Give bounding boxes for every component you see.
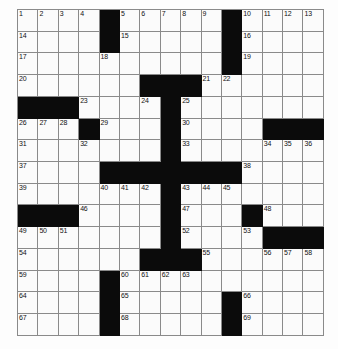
grid-cell-open[interactable] — [242, 184, 262, 206]
grid-cell-open[interactable] — [38, 32, 58, 54]
grid-cell-open[interactable] — [38, 184, 58, 206]
grid-cell-open[interactable] — [120, 97, 140, 119]
grid-cell-open[interactable]: 23 — [79, 97, 99, 119]
grid-cell-open[interactable] — [59, 314, 79, 336]
grid-cell-open[interactable] — [222, 227, 242, 249]
grid-cell-open[interactable] — [283, 205, 303, 227]
grid-cell-open[interactable]: 59 — [18, 271, 38, 293]
grid-cell-open[interactable]: 44 — [202, 184, 222, 206]
grid-cell-open[interactable] — [140, 140, 160, 162]
grid-cell-open[interactable] — [202, 314, 222, 336]
grid-cell-open[interactable] — [283, 162, 303, 184]
grid-cell-open[interactable] — [120, 140, 140, 162]
grid-cell-open[interactable] — [181, 292, 201, 314]
grid-cell-open[interactable]: 20 — [18, 75, 38, 97]
grid-cell-open[interactable]: 10 — [242, 10, 262, 32]
grid-cell-open[interactable] — [38, 271, 58, 293]
grid-cell-open[interactable] — [100, 249, 120, 271]
grid-cell-open[interactable] — [59, 140, 79, 162]
grid-cell-open[interactable] — [100, 75, 120, 97]
grid-cell-open[interactable]: 24 — [140, 97, 160, 119]
grid-cell-open[interactable]: 50 — [38, 227, 58, 249]
grid-cell-open[interactable]: 56 — [263, 249, 283, 271]
grid-cell-open[interactable] — [283, 271, 303, 293]
grid-cell-open[interactable] — [59, 271, 79, 293]
grid-cell-open[interactable] — [59, 162, 79, 184]
grid-cell-open[interactable] — [120, 227, 140, 249]
grid-cell-open[interactable]: 15 — [120, 32, 140, 54]
grid-cell-open[interactable] — [120, 53, 140, 75]
grid-cell-open[interactable] — [263, 53, 283, 75]
grid-cell-open[interactable] — [242, 119, 262, 141]
grid-cell-open[interactable]: 9 — [202, 10, 222, 32]
grid-cell-open[interactable]: 28 — [59, 119, 79, 141]
grid-cell-open[interactable] — [100, 140, 120, 162]
grid-cell-open[interactable] — [303, 184, 323, 206]
grid-cell-open[interactable]: 60 — [120, 271, 140, 293]
grid-cell-open[interactable] — [181, 314, 201, 336]
grid-cell-open[interactable] — [283, 184, 303, 206]
crossword-grid[interactable]: 1234567891011121314151617181920212223242… — [17, 9, 324, 336]
grid-cell-open[interactable] — [222, 140, 242, 162]
grid-cell-open[interactable]: 39 — [18, 184, 38, 206]
grid-cell-open[interactable] — [79, 75, 99, 97]
grid-cell-open[interactable]: 62 — [161, 271, 181, 293]
grid-cell-open[interactable] — [140, 205, 160, 227]
grid-cell-open[interactable]: 31 — [18, 140, 38, 162]
grid-cell-open[interactable] — [38, 75, 58, 97]
grid-cell-open[interactable]: 48 — [263, 205, 283, 227]
grid-cell-open[interactable] — [79, 314, 99, 336]
grid-cell-open[interactable] — [161, 292, 181, 314]
grid-cell-open[interactable] — [79, 184, 99, 206]
grid-cell-open[interactable]: 7 — [161, 10, 181, 32]
grid-cell-open[interactable]: 52 — [181, 227, 201, 249]
grid-cell-open[interactable] — [303, 205, 323, 227]
grid-cell-open[interactable]: 69 — [242, 314, 262, 336]
grid-cell-open[interactable] — [263, 292, 283, 314]
grid-cell-open[interactable]: 19 — [242, 53, 262, 75]
grid-cell-open[interactable]: 42 — [140, 184, 160, 206]
grid-cell-open[interactable] — [38, 162, 58, 184]
grid-cell-open[interactable] — [120, 75, 140, 97]
grid-cell-open[interactable] — [303, 162, 323, 184]
grid-cell-open[interactable] — [79, 271, 99, 293]
grid-cell-open[interactable]: 32 — [79, 140, 99, 162]
grid-cell-open[interactable] — [140, 292, 160, 314]
grid-cell-open[interactable] — [303, 97, 323, 119]
grid-cell-open[interactable] — [100, 205, 120, 227]
grid-cell-open[interactable] — [263, 97, 283, 119]
grid-cell-open[interactable]: 30 — [181, 119, 201, 141]
grid-cell-open[interactable]: 53 — [242, 227, 262, 249]
grid-cell-open[interactable] — [202, 292, 222, 314]
grid-cell-open[interactable] — [242, 249, 262, 271]
grid-cell-open[interactable] — [303, 53, 323, 75]
grid-cell-open[interactable] — [161, 53, 181, 75]
grid-cell-open[interactable]: 2 — [38, 10, 58, 32]
grid-cell-open[interactable]: 40 — [100, 184, 120, 206]
grid-cell-open[interactable] — [140, 53, 160, 75]
grid-cell-open[interactable]: 45 — [222, 184, 242, 206]
grid-cell-open[interactable]: 37 — [18, 162, 38, 184]
grid-cell-open[interactable]: 43 — [181, 184, 201, 206]
grid-cell-open[interactable] — [283, 75, 303, 97]
grid-cell-open[interactable] — [222, 205, 242, 227]
grid-cell-open[interactable]: 61 — [140, 271, 160, 293]
grid-cell-open[interactable]: 6 — [140, 10, 160, 32]
grid-cell-open[interactable] — [242, 75, 262, 97]
grid-cell-open[interactable] — [242, 140, 262, 162]
grid-cell-open[interactable]: 34 — [263, 140, 283, 162]
grid-cell-open[interactable] — [181, 32, 201, 54]
grid-cell-open[interactable] — [38, 140, 58, 162]
grid-cell-open[interactable] — [263, 162, 283, 184]
grid-cell-open[interactable] — [283, 53, 303, 75]
grid-cell-open[interactable] — [120, 249, 140, 271]
grid-cell-open[interactable]: 26 — [18, 119, 38, 141]
grid-cell-open[interactable]: 5 — [120, 10, 140, 32]
grid-cell-open[interactable] — [303, 75, 323, 97]
grid-cell-open[interactable] — [202, 205, 222, 227]
grid-cell-open[interactable]: 46 — [79, 205, 99, 227]
grid-cell-open[interactable]: 68 — [120, 314, 140, 336]
grid-cell-open[interactable] — [59, 292, 79, 314]
grid-cell-open[interactable] — [202, 97, 222, 119]
grid-cell-open[interactable]: 54 — [18, 249, 38, 271]
